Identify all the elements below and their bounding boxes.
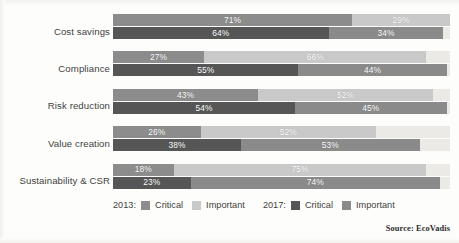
- bar-segment-2013-important[interactable]: 66%: [204, 51, 426, 63]
- stacked-bar-2017[interactable]: 55%44%: [113, 64, 450, 76]
- bar-group: 27%66%55%44%: [113, 51, 450, 76]
- bar-value-label: 74%: [307, 178, 324, 186]
- chart-legend: 2013: Critical Important 2017: Critical …: [113, 200, 413, 210]
- stacked-bar-2013[interactable]: 71%29%: [113, 14, 450, 26]
- chart-row: Risk reduction43%52%54%45%: [0, 87, 459, 124]
- bar-segment-2013-important[interactable]: 75%: [174, 164, 427, 176]
- legend-item-2013-critical[interactable]: Critical Important: [141, 200, 254, 210]
- bar-group: 18%75%23%74%: [113, 164, 450, 189]
- bar-segment-2017-important[interactable]: 34%: [329, 27, 444, 39]
- bar-value-label: 44%: [364, 66, 381, 74]
- stacked-bar-2017[interactable]: 54%45%: [113, 102, 450, 114]
- legend-swatch-2013-important: [192, 201, 201, 210]
- bar-segment-2013-critical[interactable]: 26%: [113, 126, 201, 138]
- legend-year-2017: 2017:: [263, 200, 286, 210]
- legend-swatch-2013-critical: [141, 201, 150, 210]
- bar-value-label: 64%: [212, 29, 229, 37]
- stacked-bar-2017[interactable]: 64%34%: [113, 27, 450, 39]
- bar-segment-2017-important[interactable]: 74%: [191, 177, 440, 189]
- bar-segment-2013-important[interactable]: 52%: [258, 89, 433, 101]
- legend-item-2017-critical[interactable]: Critical Important: [291, 200, 404, 210]
- bar-segment-2017-important[interactable]: 44%: [298, 64, 446, 76]
- legend-swatch-2017-important: [342, 201, 351, 210]
- bar-value-label: 75%: [292, 165, 309, 173]
- legend-swatch-2017-critical: [291, 201, 300, 210]
- bar-value-label: 27%: [150, 53, 167, 61]
- stacked-bar-2017[interactable]: 38%53%: [113, 139, 450, 151]
- category-label: Compliance: [0, 63, 110, 74]
- bar-group: 43%52%54%45%: [113, 89, 450, 114]
- category-label: Value creation: [0, 137, 110, 148]
- bar-value-label: 23%: [143, 178, 160, 186]
- bar-segment-2017-critical[interactable]: 38%: [113, 139, 241, 151]
- bar-value-label: 52%: [280, 128, 297, 136]
- stacked-bar-2013[interactable]: 18%75%: [113, 164, 450, 176]
- bar-value-label: 55%: [197, 66, 214, 74]
- legend-label-2013-important: Important: [206, 200, 245, 210]
- chart-rows: Cost savings71%29%64%34%Compliance27%66%…: [0, 12, 459, 199]
- bar-value-label: 29%: [393, 16, 410, 24]
- bar-value-label: 26%: [148, 128, 165, 136]
- bar-segment-2013-important[interactable]: 52%: [201, 126, 376, 138]
- bar-segment-2013-critical[interactable]: 18%: [113, 164, 174, 176]
- bar-value-label: 38%: [168, 141, 185, 149]
- bar-group: 71%29%64%34%: [113, 14, 450, 39]
- bar-segment-2017-important[interactable]: 53%: [241, 139, 420, 151]
- source-note: Source: EcoVadis: [386, 224, 450, 233]
- legend-label-2017-critical: Critical: [305, 200, 333, 210]
- chart-row: Value creation26%52%38%53%: [0, 124, 459, 161]
- bar-segment-2017-important[interactable]: 45%: [295, 102, 447, 114]
- bar-value-label: 54%: [195, 104, 212, 112]
- bar-segment-2017-critical[interactable]: 64%: [113, 27, 329, 39]
- legend-label-2017-important: Important: [356, 200, 395, 210]
- stacked-bar-2013[interactable]: 43%52%: [113, 89, 450, 101]
- chart-row: Compliance27%66%55%44%: [0, 49, 459, 86]
- stacked-bar-chart: Cost savings71%29%64%34%Compliance27%66%…: [0, 0, 459, 243]
- stacked-bar-2013[interactable]: 26%52%: [113, 126, 450, 138]
- category-label: Cost savings: [0, 25, 110, 36]
- bar-value-label: 71%: [224, 16, 241, 24]
- bar-segment-2017-critical[interactable]: 55%: [113, 64, 298, 76]
- bar-segment-2017-critical[interactable]: 54%: [113, 102, 295, 114]
- bar-group: 26%52%38%53%: [113, 126, 450, 151]
- bar-value-label: 43%: [177, 91, 194, 99]
- stacked-bar-2013[interactable]: 27%66%: [113, 51, 450, 63]
- bar-segment-2013-critical[interactable]: 43%: [113, 89, 258, 101]
- stacked-bar-2017[interactable]: 23%74%: [113, 177, 450, 189]
- bar-segment-2013-critical[interactable]: 27%: [113, 51, 204, 63]
- category-label: Sustainability & CSR: [0, 175, 110, 186]
- bar-segment-2013-critical[interactable]: 71%: [113, 14, 352, 26]
- bar-segment-2013-important[interactable]: 29%: [352, 14, 450, 26]
- bar-value-label: 18%: [135, 165, 152, 173]
- chart-row: Cost savings71%29%64%34%: [0, 12, 459, 49]
- legend-year-2013: 2013:: [113, 200, 136, 210]
- category-label: Risk reduction: [0, 100, 110, 111]
- bar-segment-2017-critical[interactable]: 23%: [113, 177, 191, 189]
- bar-value-label: 66%: [307, 53, 324, 61]
- bar-value-label: 52%: [337, 91, 354, 99]
- bar-value-label: 53%: [322, 141, 339, 149]
- bar-value-label: 34%: [377, 29, 394, 37]
- chart-row: Sustainability & CSR18%75%23%74%: [0, 162, 459, 199]
- legend-label-2013-critical: Critical: [155, 200, 183, 210]
- bar-value-label: 45%: [362, 104, 379, 112]
